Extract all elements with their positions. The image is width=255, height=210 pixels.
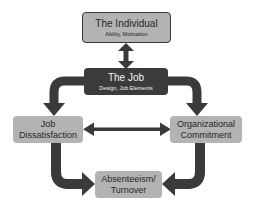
node-title: The Individual	[95, 18, 157, 29]
node-label-line2: Turnover	[111, 185, 147, 196]
node-label-line2: Dissatisfaction	[19, 130, 77, 141]
arrow-individual-job	[118, 43, 134, 69]
arrow-job-commitment	[166, 81, 208, 116]
arrow-job-dissatisfaction	[43, 81, 86, 116]
node-the-job: The Job Design, Job Elements	[84, 68, 168, 95]
node-subtitle: Ability, Motivation	[105, 31, 147, 37]
arrow-commitment-absenteeism	[162, 143, 200, 196]
node-absenteeism-turnover: Absenteeism/ Turnover	[95, 171, 162, 198]
node-the-individual: The Individual Ability, Motivation	[82, 12, 171, 43]
node-subtitle: Design, Job Elements	[99, 85, 153, 91]
node-label-line2: Commitment	[180, 130, 231, 141]
arrow-dissatisfaction-absenteeism	[56, 143, 95, 196]
node-organizational-commitment: Organizational Commitment	[170, 116, 242, 143]
node-job-dissatisfaction: Job Dissatisfaction	[13, 116, 83, 143]
node-label-line1: Organizational	[177, 119, 235, 130]
arrow-dissatisfaction-commitment	[83, 123, 171, 137]
node-title: The Job	[108, 72, 144, 83]
node-label-line1: Job	[41, 119, 56, 130]
node-label-line1: Absenteeism/	[101, 174, 156, 185]
